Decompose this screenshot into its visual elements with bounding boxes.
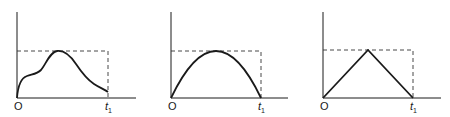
dashed-bounding-box [323,50,413,98]
diagram-canvas: O t1 O t1 O t1 [0,0,450,117]
origin-label: O [320,100,329,112]
origin-label: O [14,100,23,112]
t1-label: t1 [105,100,112,114]
parabola-curve [171,51,261,98]
panel-2: O t1 [168,12,288,114]
curve [17,51,108,98]
panel-1: O t1 [14,12,136,114]
origin-label: O [168,100,177,112]
triangle-curve [323,50,413,98]
panel-3: O t1 [320,12,441,114]
t1-label: t1 [258,100,265,114]
t1-label: t1 [410,100,417,114]
